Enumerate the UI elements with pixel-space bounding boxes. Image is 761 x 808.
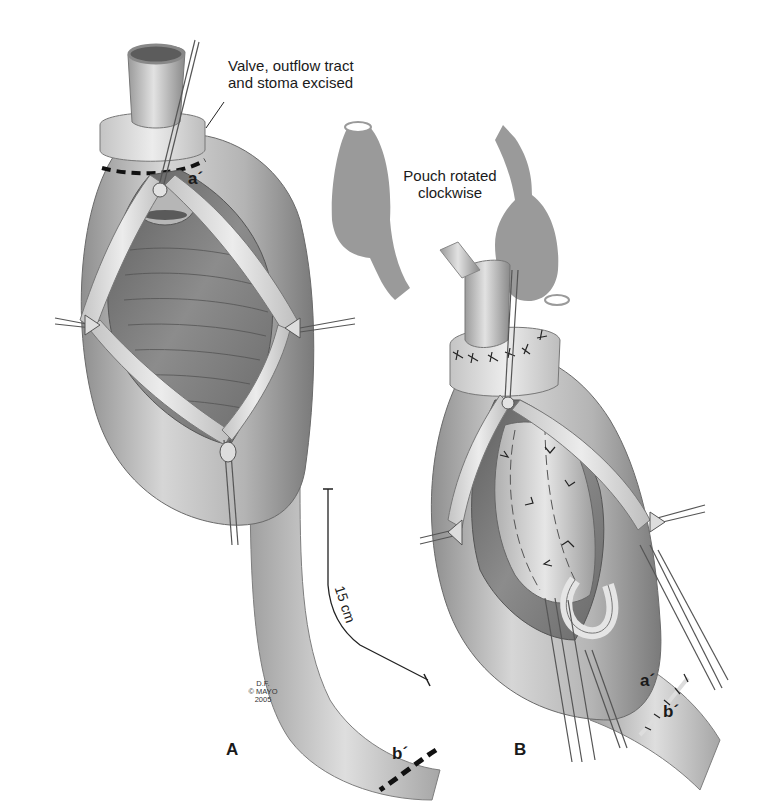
inset-caption: Pouch rotated clockwise: [400, 168, 500, 201]
credit-year: 2005: [243, 696, 283, 704]
inset-caption-line2: clockwise: [400, 185, 500, 202]
marker-b-prime-panel-b: b´: [663, 703, 679, 722]
inset-caption-line1: Pouch rotated: [400, 168, 500, 185]
marker-a-prime-panel-a: a´: [188, 170, 203, 189]
panel-label-a: A: [226, 741, 238, 760]
artist-credit: D.F. © MAYO 2005: [243, 680, 283, 704]
callout-excision: Valve, outflow tract and stoma excised: [228, 58, 354, 91]
surgical-illustration: Valve, outflow tract and stoma excised P…: [0, 0, 761, 808]
panel-b-drawing: [420, 242, 728, 790]
callout-excision-line1: Valve, outflow tract: [228, 58, 354, 75]
inset-rotation-diagram: [332, 122, 569, 305]
panel-label-b: B: [514, 741, 526, 760]
callout-excision-line2: and stoma excised: [228, 75, 354, 92]
marker-a-prime-panel-b: a´: [640, 672, 655, 691]
marker-b-prime-panel-a: b´: [392, 745, 408, 764]
